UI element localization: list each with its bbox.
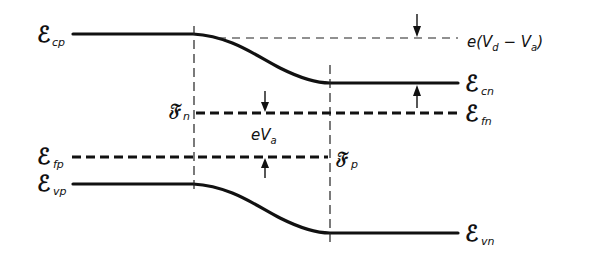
svg-text:𝔉: 𝔉 [168, 99, 182, 120]
svg-text:𝔉: 𝔉 [335, 147, 349, 168]
label-evp: ℰ vp [37, 170, 67, 198]
label-efp: ℰ fp [37, 143, 64, 171]
svg-text:ℰ: ℰ [37, 143, 50, 169]
applied-arrow-down-icon [261, 91, 269, 112]
svg-text:cp: cp [52, 36, 65, 49]
label-barrier-height: e(Vd − Va) [467, 33, 543, 53]
svg-text:vp: vp [53, 185, 67, 198]
conduction-band [73, 34, 458, 83]
label-ecp: ℰ cp [37, 21, 65, 49]
label-efn: ℰ fn [465, 100, 492, 128]
band-diagram: ℰ cp ℰ cn ℰ fn ℰ fp ℰ vp ℰ vn 𝔉 n 𝔉 p e(… [0, 0, 589, 260]
svg-text:fn: fn [481, 115, 492, 128]
barrier-arrow-down-icon [413, 14, 421, 37]
svg-text:cn: cn [481, 85, 494, 98]
svg-text:ℰ: ℰ [465, 100, 478, 126]
svg-text:fp: fp [53, 158, 64, 171]
label-ecn: ℰ cn [465, 70, 494, 98]
svg-text:e(Vd − Va): e(Vd − Va) [467, 33, 543, 53]
barrier-arrow-up-icon [413, 85, 421, 108]
svg-text:ℰ: ℰ [37, 21, 50, 47]
applied-arrow-up-icon [261, 158, 269, 178]
svg-text:ℰ: ℰ [465, 220, 478, 246]
label-applied-voltage: eVa [251, 126, 277, 146]
label-evn: ℰ vn [465, 220, 495, 248]
valence-band [73, 184, 458, 233]
svg-text:n: n [183, 110, 190, 123]
svg-text:vn: vn [481, 235, 495, 248]
svg-text:ℰ: ℰ [465, 70, 478, 96]
label-fn: 𝔉 n [168, 99, 190, 123]
label-fp: 𝔉 p [335, 147, 358, 171]
svg-text:eVa: eVa [251, 126, 277, 146]
svg-text:p: p [350, 158, 358, 171]
svg-text:ℰ: ℰ [37, 170, 50, 196]
